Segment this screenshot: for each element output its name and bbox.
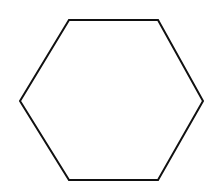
hexagon-figure xyxy=(0,0,218,188)
diagram-canvas xyxy=(0,0,218,188)
hexagon-shape xyxy=(20,20,203,180)
